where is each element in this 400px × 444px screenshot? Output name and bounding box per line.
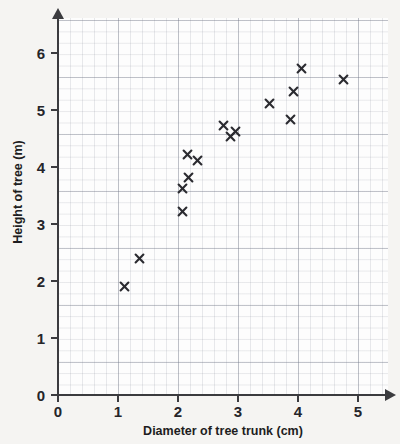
y-tick-mark [51,337,58,339]
y-tick-label: 1 [15,331,45,346]
data-point-marker [218,120,229,131]
x-axis-arrow-icon [385,389,396,401]
y-tick-label: 6 [15,46,45,61]
x-tick-mark [357,395,359,402]
data-point-marker [177,183,188,194]
y-axis-title: Height of tree (m) [11,92,25,292]
x-tick-label: 3 [223,404,253,419]
x-tick-mark [57,395,59,402]
x-axis-title: Diameter of tree trunk (cm) [58,424,388,438]
data-point-marker [288,86,299,97]
data-point-marker [285,114,296,125]
data-point-marker [230,126,241,137]
data-point-marker [182,149,193,160]
x-tick-mark [177,395,179,402]
x-tick-mark [237,395,239,402]
y-tick-mark [51,223,58,225]
data-point-marker [192,155,203,166]
x-tick-label: 2 [163,404,193,419]
x-axis-line [57,394,390,396]
x-tick-mark [117,395,119,402]
x-tick-mark [297,395,299,402]
data-point-marker [296,63,307,74]
data-point-marker [183,172,194,183]
x-tick-label: 4 [283,404,313,419]
data-point-marker [134,253,145,264]
x-tick-label: 0 [43,404,73,419]
scatter-plot-figure: 0123456 012345 Diameter of tree trunk (c… [0,0,400,444]
y-tick-label: 0 [15,388,45,403]
y-axis-line [57,17,59,396]
data-point-marker [119,281,130,292]
y-tick-mark [51,52,58,54]
y-tick-mark [51,166,58,168]
data-point-marker [338,74,349,85]
y-tick-mark [51,109,58,111]
data-point-marker [177,206,188,217]
data-point-marker [264,98,275,109]
y-axis-arrow-icon [52,8,64,19]
x-tick-label: 1 [103,404,133,419]
x-tick-label: 5 [343,404,373,419]
y-tick-mark [51,280,58,282]
